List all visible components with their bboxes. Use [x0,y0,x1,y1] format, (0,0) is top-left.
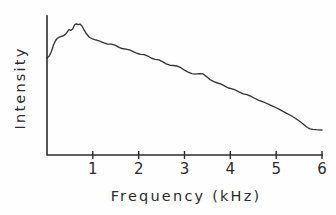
y-axis-title: Intensity [12,47,28,130]
x-tick-label-1: 1 [88,160,98,178]
spectrum-chart-figure: 123456 Frequency (kHz) Intensity [0,0,336,215]
x-tick-label-6: 6 [317,160,327,178]
x-tick-label-2: 2 [134,160,144,178]
x-axis-title: Frequency (kHz) [111,188,262,204]
x-tick-label-5: 5 [271,160,281,178]
x-axis-tick-labels: 123456 [88,160,327,178]
x-tick-label-4: 4 [226,160,236,178]
chart-canvas: 123456 Frequency (kHz) Intensity [0,0,336,215]
x-tick-label-3: 3 [180,160,190,178]
data-series-group [47,24,322,130]
spectrum-line [47,24,322,130]
